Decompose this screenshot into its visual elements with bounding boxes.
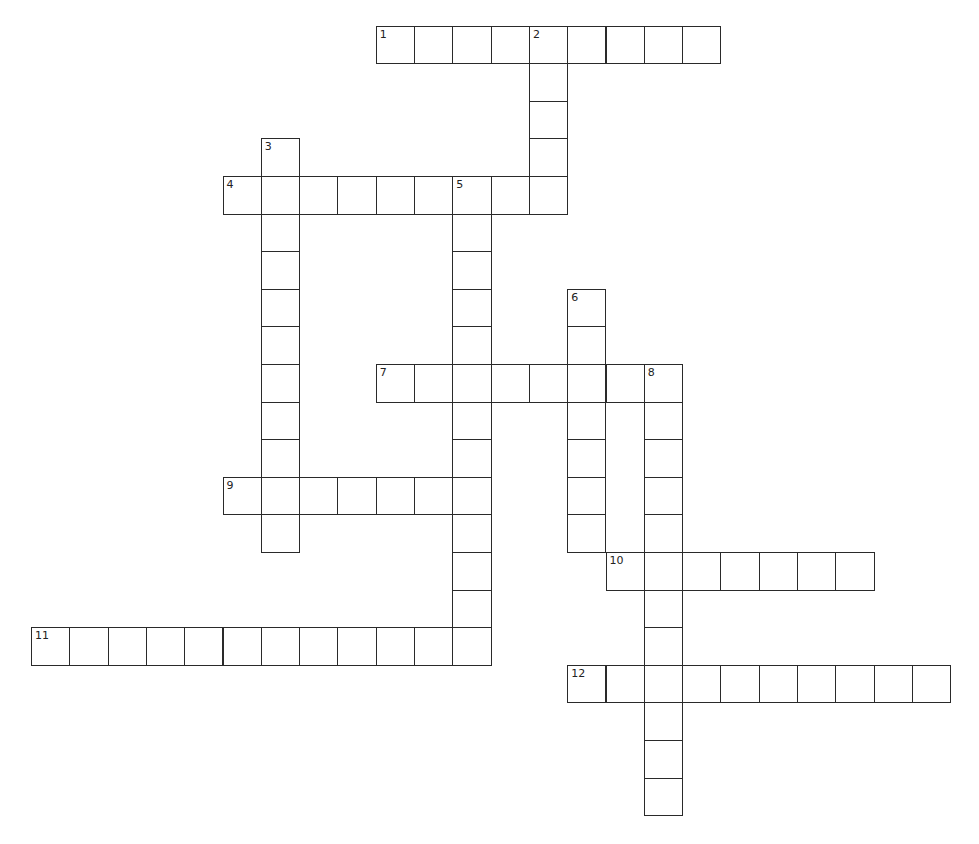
crossword-cell[interactable] (720, 665, 759, 704)
crossword-cell[interactable] (376, 627, 415, 666)
crossword-cell[interactable] (452, 439, 491, 478)
crossword-cell[interactable] (414, 364, 453, 403)
crossword-cell[interactable] (146, 627, 185, 666)
crossword-cell[interactable] (337, 477, 376, 516)
crossword-cell[interactable]: 10 (606, 552, 645, 591)
crossword-cell[interactable] (759, 665, 798, 704)
crossword-cell[interactable] (452, 251, 491, 290)
crossword-cell[interactable] (529, 63, 568, 102)
crossword-cell[interactable] (567, 514, 606, 553)
crossword-cell[interactable] (567, 364, 606, 403)
crossword-cell[interactable] (529, 101, 568, 140)
crossword-cell[interactable] (261, 627, 300, 666)
crossword-cell[interactable] (261, 214, 300, 253)
crossword-cell[interactable] (69, 627, 108, 666)
crossword-cell[interactable] (682, 665, 721, 704)
crossword-cell[interactable] (108, 627, 147, 666)
crossword-cell[interactable] (184, 627, 223, 666)
crossword-cell[interactable] (491, 26, 530, 65)
crossword-cell[interactable] (720, 552, 759, 591)
crossword-cell[interactable] (452, 402, 491, 441)
crossword-cell[interactable] (644, 477, 683, 516)
crossword-cell[interactable] (797, 552, 836, 591)
crossword-cell[interactable]: 12 (567, 665, 606, 704)
crossword-cell[interactable] (606, 364, 645, 403)
crossword-cell[interactable] (874, 665, 913, 704)
crossword-cell[interactable]: 6 (567, 289, 606, 328)
crossword-cell[interactable] (644, 778, 683, 817)
crossword-cell[interactable] (567, 439, 606, 478)
crossword-cell[interactable] (376, 477, 415, 516)
crossword-cell[interactable] (452, 552, 491, 591)
crossword-cell[interactable] (644, 402, 683, 441)
crossword-cell[interactable]: 7 (376, 364, 415, 403)
crossword-cell[interactable]: 9 (223, 477, 262, 516)
crossword-cell[interactable] (452, 364, 491, 403)
crossword-cell[interactable] (414, 477, 453, 516)
crossword-cell[interactable]: 8 (644, 364, 683, 403)
crossword-cell[interactable] (452, 214, 491, 253)
crossword-cell[interactable] (261, 289, 300, 328)
clue-number: 6 (571, 292, 578, 304)
crossword-cell[interactable] (261, 439, 300, 478)
crossword-cell[interactable] (491, 364, 530, 403)
crossword-cell[interactable]: 5 (452, 176, 491, 215)
crossword-cell[interactable] (644, 627, 683, 666)
crossword-cell[interactable] (644, 514, 683, 553)
crossword-cell[interactable] (452, 590, 491, 629)
crossword-cell[interactable] (912, 665, 951, 704)
crossword-cell[interactable] (644, 590, 683, 629)
crossword-cell[interactable] (606, 665, 645, 704)
crossword-cell[interactable] (797, 665, 836, 704)
crossword-cell[interactable]: 4 (223, 176, 262, 215)
crossword-cell[interactable] (414, 176, 453, 215)
crossword-cell[interactable] (261, 514, 300, 553)
crossword-cell[interactable] (299, 477, 338, 516)
crossword-cell[interactable] (452, 477, 491, 516)
crossword-cell[interactable] (299, 627, 338, 666)
crossword-cell[interactable] (644, 552, 683, 591)
crossword-cell[interactable] (337, 627, 376, 666)
crossword-cell[interactable] (644, 702, 683, 741)
crossword-cell[interactable]: 3 (261, 138, 300, 177)
crossword-cell[interactable] (644, 26, 683, 65)
crossword-cell[interactable] (644, 665, 683, 704)
crossword-cell[interactable] (261, 402, 300, 441)
crossword-cell[interactable] (299, 176, 338, 215)
crossword-cell[interactable] (337, 176, 376, 215)
crossword-cell[interactable] (261, 326, 300, 365)
crossword-cell[interactable] (682, 552, 721, 591)
crossword-cell[interactable] (261, 251, 300, 290)
crossword-cell[interactable] (835, 665, 874, 704)
crossword-cell[interactable] (644, 740, 683, 779)
clue-number: 1 (380, 29, 387, 41)
crossword-cell[interactable] (261, 176, 300, 215)
crossword-cell[interactable] (682, 26, 721, 65)
crossword-cell[interactable] (567, 326, 606, 365)
crossword-cell[interactable] (606, 26, 645, 65)
crossword-cell[interactable] (835, 552, 874, 591)
crossword-cell[interactable]: 2 (529, 26, 568, 65)
crossword-cell[interactable] (452, 289, 491, 328)
crossword-cell[interactable] (644, 439, 683, 478)
crossword-cell[interactable] (223, 627, 262, 666)
crossword-cell[interactable] (452, 627, 491, 666)
crossword-cell[interactable] (452, 326, 491, 365)
crossword-cell[interactable] (567, 26, 606, 65)
crossword-cell[interactable] (567, 402, 606, 441)
crossword-cell[interactable] (414, 627, 453, 666)
crossword-cell[interactable] (452, 26, 491, 65)
crossword-cell[interactable] (529, 138, 568, 177)
crossword-cell[interactable] (376, 176, 415, 215)
crossword-cell[interactable] (261, 477, 300, 516)
crossword-cell[interactable] (491, 176, 530, 215)
crossword-cell[interactable]: 1 (376, 26, 415, 65)
crossword-cell[interactable]: 11 (31, 627, 70, 666)
crossword-cell[interactable] (567, 477, 606, 516)
crossword-cell[interactable] (452, 514, 491, 553)
crossword-cell[interactable] (759, 552, 798, 591)
crossword-cell[interactable] (261, 364, 300, 403)
crossword-cell[interactable] (529, 364, 568, 403)
crossword-cell[interactable] (529, 176, 568, 215)
crossword-cell[interactable] (414, 26, 453, 65)
